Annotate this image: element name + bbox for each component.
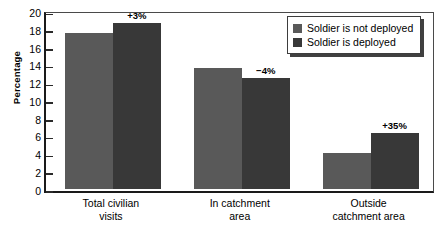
bar-chart: Percentage 20181614121086420 +3%−4%+35% … xyxy=(0,0,442,236)
x-axis-label: In catchmentarea xyxy=(170,197,310,222)
bar-group: +3% xyxy=(49,13,178,189)
tick-label: 6 xyxy=(35,131,41,144)
legend-item: Soldier is deployed xyxy=(293,35,413,49)
bar-deployed: +3% xyxy=(113,23,161,188)
bar-annotation: +3% xyxy=(127,10,146,21)
tick-label: 16 xyxy=(29,43,41,56)
tick-label: 2 xyxy=(35,167,41,180)
tick-label: 10 xyxy=(29,96,41,109)
legend-label: Soldier is deployed xyxy=(307,36,396,48)
bar-not-deployed xyxy=(323,153,371,189)
tick-label: 14 xyxy=(29,60,41,73)
bar-annotation: +35% xyxy=(382,120,407,131)
tick-label: 18 xyxy=(29,25,41,38)
x-axis-label-line: catchment area xyxy=(299,210,439,223)
legend-item: Soldier is not deployed xyxy=(293,21,413,35)
tick-mark xyxy=(46,191,53,193)
legend-swatch-not-deployed xyxy=(293,24,302,33)
x-axis-label-line: Total civilian xyxy=(41,197,181,210)
bar-deployed: −4% xyxy=(242,78,290,188)
tick-label: 0 xyxy=(35,185,41,198)
x-axis-label-line: Outside xyxy=(299,197,439,210)
legend-swatch-deployed xyxy=(293,38,302,47)
bar-not-deployed xyxy=(65,33,113,188)
bar-deployed: +35% xyxy=(371,133,419,189)
legend-label: Soldier is not deployed xyxy=(307,22,413,34)
y-axis-title: Percentage xyxy=(11,18,22,138)
bar-annotation: −4% xyxy=(256,65,275,76)
tick-label: 20 xyxy=(29,7,41,20)
x-axis-label-line: visits xyxy=(41,210,181,223)
bar-not-deployed xyxy=(194,68,242,189)
x-axis-label: Outsidecatchment area xyxy=(299,197,439,222)
tick-label: 8 xyxy=(35,114,41,127)
x-axis-label: Total civilianvisits xyxy=(41,197,181,222)
x-axis-label-line: In catchment xyxy=(170,197,310,210)
legend: Soldier is not deployed Soldier is deplo… xyxy=(287,16,421,54)
tick-label: 12 xyxy=(29,78,41,91)
tick-label: 4 xyxy=(35,149,41,162)
x-axis-label-line: area xyxy=(170,210,310,223)
